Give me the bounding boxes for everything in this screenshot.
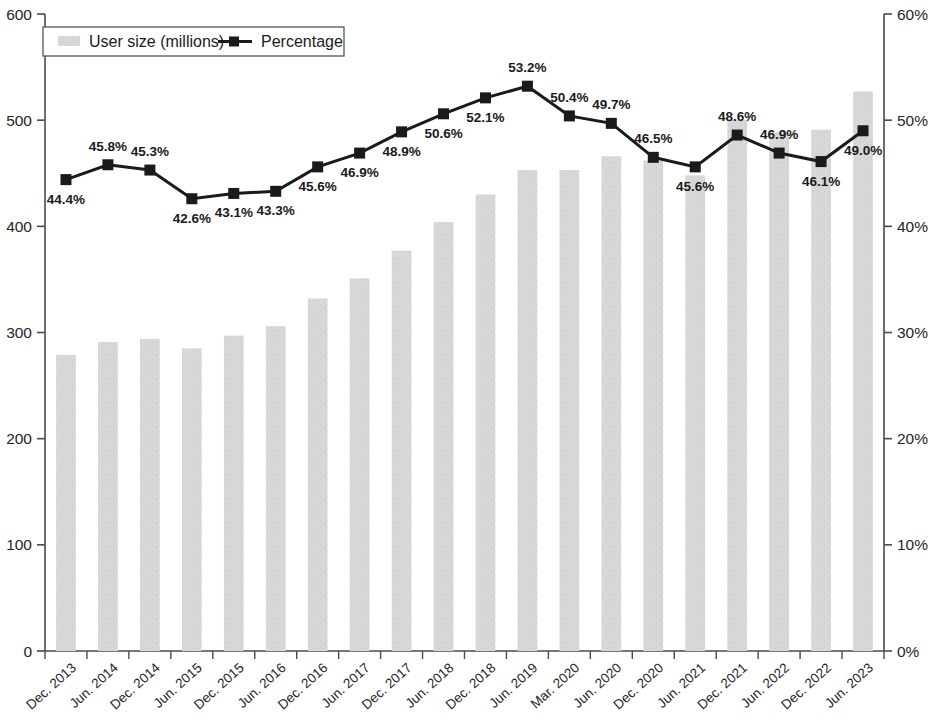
bar[interactable] [643,161,663,651]
line-marker[interactable] [816,156,827,167]
chart-legend: User size (millions) Percentage [43,27,344,56]
line-marker[interactable] [228,188,239,199]
bar[interactable] [56,355,76,651]
line-marker[interactable] [312,161,323,172]
bar[interactable] [224,336,244,651]
left-axis-tick-label: 100 [6,536,32,553]
dual-axis-bar-line-chart: 01002003004005006000%10%20%30%40%50%60% … [0,0,935,724]
line-marker[interactable] [774,148,785,159]
bar[interactable] [308,299,328,651]
percentage-value-label: 53.2% [508,60,546,75]
line-marker[interactable] [648,152,659,163]
bar[interactable] [476,194,496,651]
line-marker[interactable] [102,159,113,170]
percentage-value-label: 46.9% [340,165,378,180]
line-marker[interactable] [438,108,449,119]
left-axis-tick-label: 600 [6,6,32,23]
bar[interactable] [140,339,160,651]
bar[interactable] [811,130,831,651]
bar[interactable] [518,170,538,651]
bar[interactable] [853,92,873,651]
percentage-value-label: 43.1% [215,205,253,220]
right-axis-tick-label: 40% [897,218,928,235]
percentage-value-label: 46.5% [634,131,672,146]
line-marker[interactable] [564,110,575,121]
bar[interactable] [560,170,580,651]
legend-label-line: Percentage [261,33,343,50]
line-marker[interactable] [522,81,533,92]
line-marker[interactable] [396,126,407,137]
percentage-value-label: 48.6% [718,109,756,124]
percentage-value-label: 49.0% [844,143,882,158]
legend-label-bar: User size (millions) [89,33,224,50]
left-axis-tick-label: 0 [23,643,32,660]
bar[interactable] [685,175,705,651]
legend-swatch-bar [58,36,80,46]
line-marker[interactable] [60,174,71,185]
bar[interactable] [727,120,747,651]
bar[interactable] [350,278,370,651]
percentage-value-label: 45.6% [676,179,714,194]
chart-container: 01002003004005006000%10%20%30%40%50%60% … [0,0,935,724]
left-axis-tick-label: 500 [6,112,32,129]
percentage-value-label: 50.4% [550,90,588,105]
line-marker[interactable] [606,118,617,129]
percentage-value-label: 49.7% [592,97,630,112]
percentage-value-label: 45.6% [299,179,337,194]
bar[interactable] [601,156,621,651]
category-labels-layer: Dec. 2013Jun. 2014Dec. 2014Jun. 2015Dec.… [23,660,876,713]
bar[interactable] [98,342,118,651]
percentage-value-label: 45.3% [131,144,169,159]
right-axis-tick-label: 20% [897,430,928,447]
percentage-value-label: 52.1% [466,110,504,125]
line-marker[interactable] [354,148,365,159]
right-axis-tick-label: 60% [897,6,928,23]
bar[interactable] [266,326,286,651]
right-axis-tick-label: 10% [897,536,928,553]
percentage-value-label: 45.8% [89,139,127,154]
line-marker[interactable] [858,125,869,136]
bar[interactable] [392,251,412,651]
right-axis-tick-label: 50% [897,112,928,129]
line-marker[interactable] [732,130,743,141]
bar[interactable] [769,132,789,651]
left-axis-tick-label: 400 [6,218,32,235]
left-axis-tick-label: 200 [6,430,32,447]
percentage-value-label: 46.1% [802,174,840,189]
bar[interactable] [182,348,202,651]
percentage-value-label: 46.9% [760,127,798,142]
right-axis-tick-label: 30% [897,324,928,341]
right-axis-tick-label: 0% [897,643,920,660]
line-marker[interactable] [144,165,155,176]
line-series-layer [60,81,868,205]
line-marker[interactable] [186,193,197,204]
percentage-value-label: 44.4% [47,192,85,207]
bar[interactable] [434,222,454,651]
left-axis-tick-label: 300 [6,324,32,341]
line-marker[interactable] [270,186,281,197]
percentage-value-label: 42.6% [173,211,211,226]
line-marker[interactable] [480,92,491,103]
percentage-value-label: 50.6% [424,126,462,141]
bar-series-layer [56,92,873,651]
line-marker[interactable] [690,161,701,172]
percentage-value-label: 48.9% [382,144,420,159]
percentage-value-label: 43.3% [257,203,295,218]
